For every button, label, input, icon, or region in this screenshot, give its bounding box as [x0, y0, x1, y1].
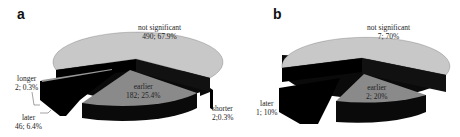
- label-a-not-significant: not significant 490; 67.9%: [138, 23, 181, 41]
- slice-b-later: [279, 78, 340, 124]
- pie-b: [279, 37, 450, 124]
- label-a-earlier: earlier 182; 25.4%: [126, 82, 161, 100]
- label-b-later: later 1; 10%: [256, 99, 277, 117]
- label-b-earlier: earlier 2; 20%: [366, 83, 387, 101]
- pie-a: [32, 32, 223, 121]
- label-a-later: later 46; 6.4%: [15, 113, 42, 131]
- label-a-longer: longer 2; 0.3%: [15, 74, 38, 92]
- label-a-shorter: shorter 2;0.3%: [212, 104, 233, 122]
- label-b-not-significant: not significant 7; 70%: [367, 23, 410, 41]
